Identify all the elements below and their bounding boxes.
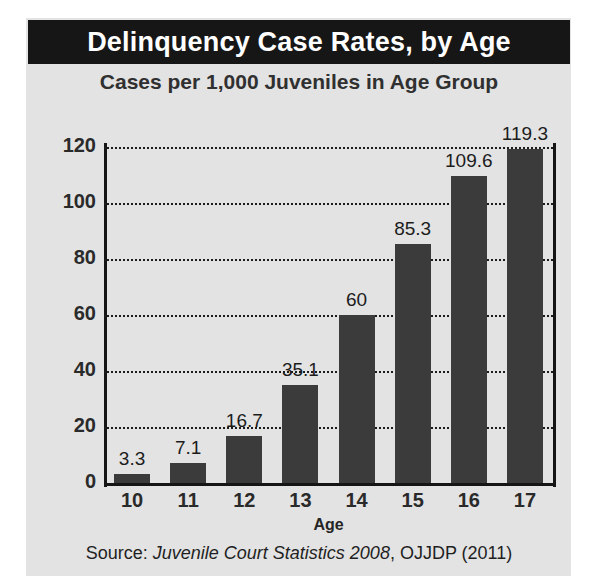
x-axis-tick: 11 (160, 489, 216, 512)
x-axis-tick: 14 (329, 489, 385, 512)
x-axis-tick: 15 (385, 489, 441, 512)
bar-value-label: 60 (312, 289, 402, 311)
source-prefix: Source: (86, 543, 153, 563)
source-title-italic: Juvenile Court Statistics 2008 (153, 543, 390, 563)
bar (170, 463, 206, 483)
bar (226, 436, 262, 483)
bar-value-label: 119.3 (480, 123, 570, 145)
page-title: Delinquency Case Rates, by Age (87, 27, 511, 58)
y-axis-tick-labels: 020406080100120 (26, 147, 96, 483)
bar-value-label: 35.1 (255, 359, 345, 381)
bar-value-label: 16.7 (199, 410, 289, 432)
x-axis-tick-labels: 1011121314151617 (104, 489, 553, 515)
source-suffix: , OJJDP (2011) (390, 543, 512, 563)
y-axis-tick: 120 (26, 134, 96, 157)
bar (395, 244, 431, 483)
source-note: Source: Juvenile Court Statistics 2008, … (28, 543, 570, 564)
bar (339, 315, 375, 483)
y-axis-tick: 80 (26, 246, 96, 269)
y-axis-tick: 20 (26, 414, 96, 437)
x-axis-tick: 10 (104, 489, 160, 512)
plot-right-border (553, 143, 556, 487)
bar-value-label: 7.1 (143, 437, 233, 459)
chart-subtitle: Cases per 1,000 Juveniles in Age Group (28, 70, 570, 94)
y-axis-tick: 60 (26, 302, 96, 325)
x-axis-tick: 17 (497, 489, 553, 512)
y-axis-tick: 100 (26, 190, 96, 213)
bar-value-label: 85.3 (368, 218, 458, 240)
chart-title-band: Delinquency Case Rates, by Age (28, 20, 570, 64)
bar (451, 176, 487, 483)
x-axis-tick: 13 (272, 489, 328, 512)
x-axis-tick: 16 (441, 489, 497, 512)
plot-area: 3.37.116.735.16085.3109.6119.3 (104, 147, 553, 483)
y-axis-tick: 0 (26, 470, 96, 493)
bar (282, 385, 318, 483)
y-axis-tick: 40 (26, 358, 96, 381)
x-axis-line (104, 483, 556, 486)
bar (507, 149, 543, 483)
chart-figure: Delinquency Case Rates, by Age Cases per… (0, 0, 592, 588)
bar-series: 3.37.116.735.16085.3109.6119.3 (104, 147, 553, 483)
x-axis-title: Age (104, 516, 553, 534)
bar (114, 474, 150, 483)
bar-value-label: 109.6 (424, 150, 514, 172)
x-axis-tick: 12 (216, 489, 272, 512)
